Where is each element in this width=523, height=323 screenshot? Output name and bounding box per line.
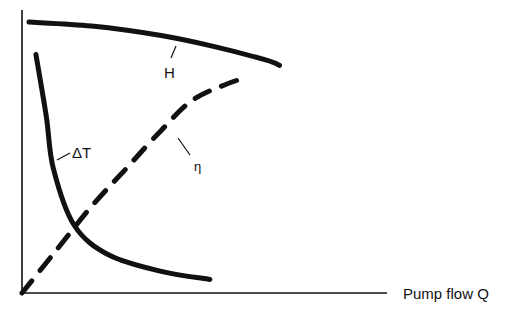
series-line-h: [29, 22, 280, 65]
annotation-leader-delta-t: [57, 153, 70, 160]
chart: Pump flow Q HΔTη: [0, 0, 523, 323]
annotation-label-eta: η: [194, 159, 201, 174]
annotation-label-delta-t: ΔT: [72, 144, 91, 161]
annotation-leader-eta: [178, 138, 190, 155]
annotation-label-h: H: [164, 64, 175, 81]
x-axis-label: Pump flow Q: [403, 285, 489, 302]
annotation-leader-h: [171, 46, 176, 58]
